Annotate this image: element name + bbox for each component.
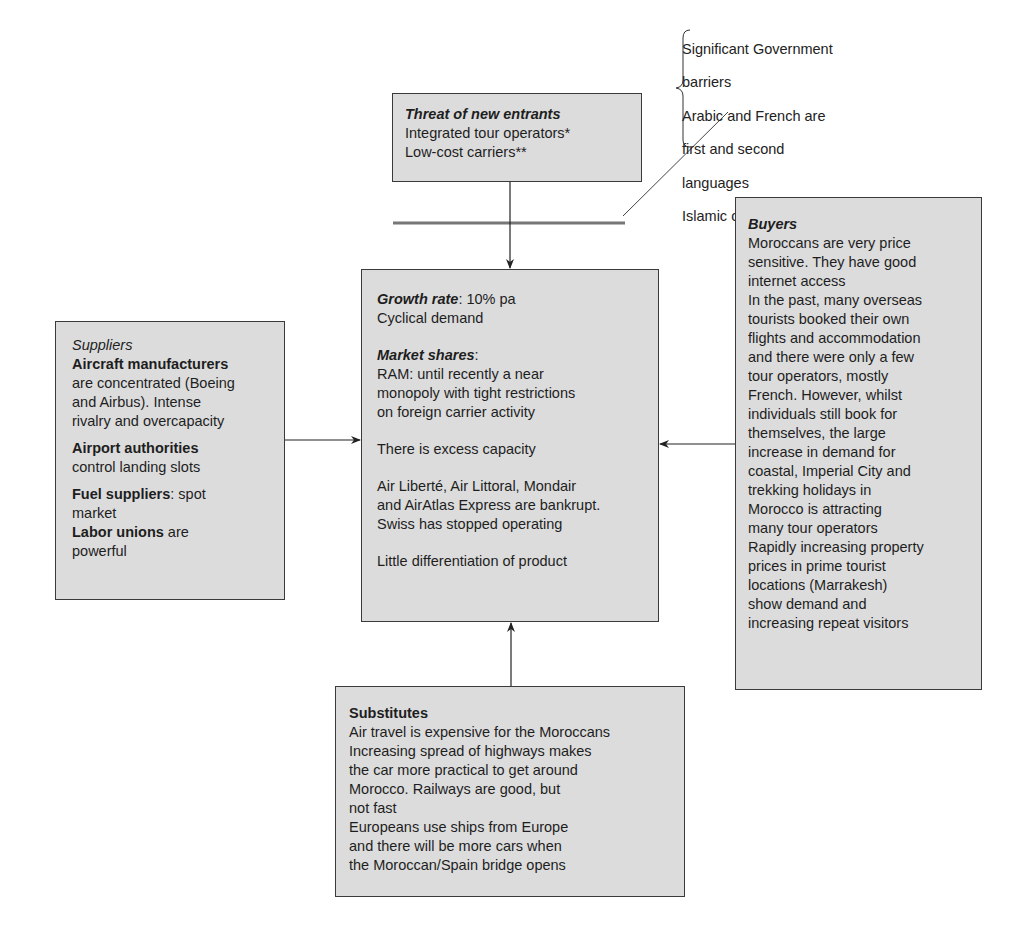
airport-text: control landing slots [72,458,268,477]
buyers-line: coastal, Imperial City and [748,462,969,481]
threat-of-new-entrants-box: Threat of new entrants Integrated tour o… [392,93,642,182]
substitutes-line: not fast [349,799,671,818]
fuel-line: Fuel suppliers: spot [72,485,268,504]
buyers-line: increasing repeat visitors [748,614,969,633]
growth-rate: Growth rate: 10% pa [377,290,643,309]
substitutes-line: the Moroccan/Spain bridge opens [349,856,671,875]
buyers-line: increase in demand for [748,443,969,462]
threat-title: Threat of new entrants [405,105,629,124]
substitutes-box: Substitutes Air travel is expensive for … [335,686,685,897]
ram-line: monopoly with tight restrictions [377,384,643,403]
threat-line: Low-cost carriers** [405,143,629,162]
substitutes-line: Increasing spread of highways makes [349,742,671,761]
industry-rivalry-box: Growth rate: 10% pa Cyclical demand Mark… [361,269,659,622]
buyers-line: show demand and [748,595,969,614]
substitutes-line: Air travel is expensive for the Moroccan… [349,723,671,742]
buyers-line: flights and accommodation [748,329,969,348]
buyers-line: Moroccans are very price [748,234,969,253]
differentiation: Little differentiation of product [377,552,643,571]
bankrupt-line: Air Liberté, Air Littoral, Mondair [377,477,643,496]
substitutes-title: Substitutes [349,704,671,723]
cyclical-demand: Cyclical demand [377,309,643,328]
aircraft-line: are concentrated (Boeing [72,374,268,393]
labor-line-2: powerful [72,542,268,561]
aircraft-line: and Airbus). Intense [72,393,268,412]
buyers-title: Buyers [748,215,969,234]
buyers-line: prices in prime tourist [748,557,969,576]
note-line: Significant Government [682,40,833,59]
buyers-line: internet access [748,272,969,291]
buyers-line: tourists booked their own [748,310,969,329]
suppliers-title: Suppliers [72,336,268,355]
buyers-line: Rapidly increasing property [748,538,969,557]
suppliers-box: Suppliers Aircraft manufacturers are con… [55,321,285,600]
buyers-line: trekking holidays in [748,481,969,500]
note-line: languages [682,174,833,193]
aircraft-label: Aircraft manufacturers [72,355,268,374]
ram-line: on foreign carrier activity [377,403,643,422]
note-line: barriers [682,73,833,92]
aircraft-line: rivalry and overcapacity [72,412,268,431]
buyers-line: Morocco is attracting [748,500,969,519]
note-line: first and second [682,140,833,159]
substitutes-line: Europeans use ships from Europe [349,818,671,837]
buyers-line: individuals still book for [748,405,969,424]
substitutes-line: Morocco. Railways are good, but [349,780,671,799]
buyers-line: sensitive. They have good [748,253,969,272]
substitutes-line: the car more practical to get around [349,761,671,780]
buyers-line: and there were only a few [748,348,969,367]
airport-label: Airport authorities [72,439,268,458]
threat-line: Integrated tour operators* [405,124,629,143]
buyers-box: Buyers Moroccans are very price sensitiv… [735,197,982,690]
bankrupt-line: Swiss has stopped operating [377,515,643,534]
buyers-line: themselves, the large [748,424,969,443]
fuel-line-2: market [72,504,268,523]
buyers-line: French. However, whilst [748,386,969,405]
labor-line: Labor unions are [72,523,268,542]
market-shares-heading: Market shares: [377,346,643,365]
buyers-line: tour operators, mostly [748,367,969,386]
note-line: Arabic and French are [682,107,833,126]
buyers-line: many tour operators [748,519,969,538]
ram-line: RAM: until recently a near [377,365,643,384]
buyers-line: In the past, many overseas [748,291,969,310]
excess-capacity: There is excess capacity [377,440,643,459]
substitutes-line: and there will be more cars when [349,837,671,856]
bankrupt-line: and AirAtlas Express are bankrupt. [377,496,643,515]
buyers-line: locations (Marrakesh) [748,576,969,595]
